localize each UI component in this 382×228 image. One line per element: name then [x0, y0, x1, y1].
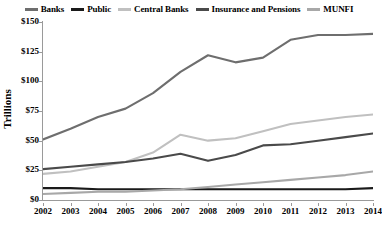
series-line-public — [43, 188, 373, 189]
legend-item-insurance-and-pensions[interactable]: Insurance and Pensions — [196, 4, 301, 14]
series-line-banks — [43, 34, 373, 140]
chart-legend: Banks Public Central Banks Insurance and… — [0, 2, 378, 16]
legend-item-public[interactable]: Public — [71, 4, 111, 14]
legend-label-central-banks: Central Banks — [134, 4, 188, 14]
x-tick-mark — [291, 203, 292, 206]
x-axis-line — [42, 200, 374, 201]
series-line-munfi — [43, 172, 373, 195]
legend-label-insurance-and-pensions: Insurance and Pensions — [212, 4, 301, 14]
x-tick-label: 2003 — [62, 206, 80, 216]
y-tick-label: $50 — [0, 136, 42, 145]
x-tick-mark — [71, 203, 72, 206]
y-tick-label: $0 — [0, 195, 42, 204]
x-tick-mark — [43, 203, 44, 206]
x-tick-mark — [208, 203, 209, 206]
plot-area — [43, 22, 373, 200]
y-tick-label: $25 — [0, 165, 42, 174]
x-axis-ticks: 2002200320042005200620072008200920102011… — [43, 203, 373, 219]
x-tick-label: 2012 — [309, 206, 327, 216]
x-tick-mark — [236, 203, 237, 206]
x-tick-label: 2005 — [117, 206, 135, 216]
legend-item-munfi[interactable]: MUNFI — [307, 4, 353, 14]
x-tick-label: 2010 — [254, 206, 272, 216]
x-tick-mark — [346, 203, 347, 206]
x-tick-mark — [263, 203, 264, 206]
x-tick-mark — [181, 203, 182, 206]
y-axis-ticks: $0$25$50$75$100$125$150 — [0, 0, 42, 228]
legend-swatch-insurance-and-pensions — [196, 8, 209, 11]
legend-item-central-banks[interactable]: Central Banks — [118, 4, 188, 14]
x-tick-mark — [318, 203, 319, 206]
x-tick-label: 2014 — [364, 206, 382, 216]
series-line-insurance-and-pensions — [43, 134, 373, 170]
legend-swatch-munfi — [307, 8, 320, 11]
x-tick-label: 2011 — [282, 206, 300, 216]
legend-label-munfi: MUNFI — [323, 4, 353, 14]
legend-swatch-public — [71, 8, 84, 11]
x-tick-mark — [98, 203, 99, 206]
x-tick-mark — [153, 203, 154, 206]
y-tick-label: $125 — [0, 47, 42, 56]
x-tick-label: 2008 — [199, 206, 217, 216]
series-lines — [43, 22, 373, 200]
x-tick-label: 2002 — [34, 206, 52, 216]
y-tick-label: $75 — [0, 106, 42, 115]
x-tick-label: 2006 — [144, 206, 162, 216]
x-tick-label: 2013 — [337, 206, 355, 216]
y-tick-label: $100 — [0, 76, 42, 85]
y-tick-label: $150 — [0, 17, 42, 26]
x-tick-mark — [126, 203, 127, 206]
x-tick-label: 2004 — [89, 206, 107, 216]
x-tick-label: 2007 — [172, 206, 190, 216]
legend-label-public: Public — [87, 4, 111, 14]
x-tick-mark — [373, 203, 374, 206]
x-tick-label: 2009 — [227, 206, 245, 216]
legend-label-banks: Banks — [41, 4, 65, 14]
legend-swatch-central-banks — [118, 8, 131, 11]
